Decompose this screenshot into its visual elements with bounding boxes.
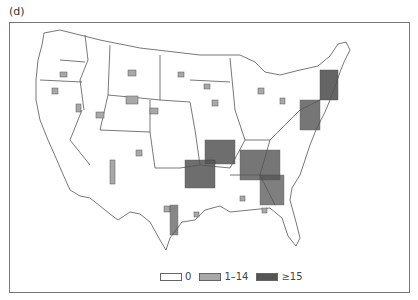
legend-item-zero: 0 (160, 271, 191, 282)
us-county-map (0, 0, 418, 300)
legend-label-zero: 0 (185, 271, 191, 282)
state-outlines (36, 30, 350, 250)
legend-item-low: 1–14 (199, 271, 248, 282)
legend-label-low: 1–14 (224, 271, 248, 282)
legend-item-high: ≥15 (256, 271, 302, 282)
legend-swatch-low (199, 273, 221, 281)
legend-swatch-zero (160, 273, 182, 281)
legend-swatch-high (256, 273, 278, 281)
legend: 0 1–14 ≥15 (160, 271, 303, 282)
legend-label-high: ≥15 (281, 271, 302, 282)
